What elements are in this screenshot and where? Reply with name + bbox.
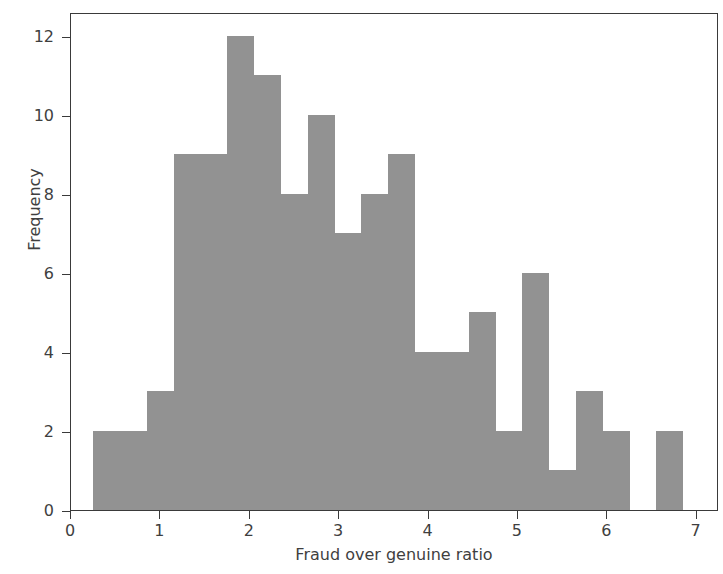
histogram-bar [576, 391, 603, 510]
y-axis-tick-label: 12 [14, 27, 54, 46]
y-axis-tick-mark [62, 37, 70, 38]
x-axis-tick-label: 0 [50, 521, 90, 540]
histogram-bar [201, 154, 228, 510]
histogram-bar [227, 36, 254, 510]
histogram-bar [549, 470, 576, 510]
histogram-bar [147, 391, 174, 510]
y-axis-tick-mark [62, 195, 70, 196]
histogram-bar [308, 115, 335, 510]
x-axis-tick-mark [428, 511, 429, 519]
histogram-bar [522, 273, 549, 510]
histogram-bar [361, 194, 388, 510]
histogram-bar [603, 431, 630, 510]
histogram-bar [469, 312, 496, 510]
bars-container [71, 14, 717, 510]
histogram-bar [93, 431, 120, 510]
x-axis-tick-mark [70, 511, 71, 519]
x-axis-tick-mark [606, 511, 607, 519]
x-axis-tick-mark [517, 511, 518, 519]
histogram-bar [120, 431, 147, 510]
x-axis-tick-mark [338, 511, 339, 519]
histogram-bar [656, 431, 683, 510]
x-axis-tick-mark [249, 511, 250, 519]
y-axis-tick-mark [62, 274, 70, 275]
x-axis-tick-label: 2 [229, 521, 269, 540]
y-axis-tick-mark [62, 432, 70, 433]
x-axis-tick-label: 3 [318, 521, 358, 540]
x-axis-tick-label: 6 [586, 521, 626, 540]
histogram-bar [388, 154, 415, 510]
histogram-bar [281, 194, 308, 510]
y-axis-title: Frequency [25, 110, 44, 310]
x-axis-title: Fraud over genuine ratio [70, 545, 718, 564]
y-axis-tick-label: 4 [14, 343, 54, 362]
plot-area [70, 13, 718, 511]
x-axis-tick-mark [159, 511, 160, 519]
y-axis-tick-label: 0 [14, 501, 54, 520]
histogram-bar [174, 154, 201, 510]
x-axis-tick-mark [696, 511, 697, 519]
histogram-bar [496, 431, 523, 510]
y-axis-tick-mark [62, 116, 70, 117]
histogram-bar [335, 233, 362, 510]
y-axis-tick-mark [62, 511, 70, 512]
y-axis-tick-mark [62, 353, 70, 354]
x-axis-tick-label: 7 [676, 521, 716, 540]
y-axis-tick-label: 2 [14, 422, 54, 441]
x-axis-tick-label: 4 [408, 521, 448, 540]
histogram-bar [415, 352, 442, 510]
x-axis-tick-label: 5 [497, 521, 537, 540]
histogram-bar [254, 75, 281, 510]
histogram-figure: 024681012 01234567 Fraud over genuine ra… [0, 0, 723, 574]
histogram-bar [442, 352, 469, 510]
x-axis-tick-label: 1 [139, 521, 179, 540]
